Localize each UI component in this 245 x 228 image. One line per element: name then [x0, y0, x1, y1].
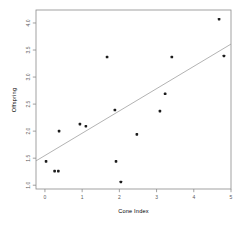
data-point	[85, 125, 88, 128]
plot-box	[36, 10, 231, 189]
data-point	[218, 18, 221, 21]
scatter-chart: 0123451.01.52.02.53.03.54.0 Cone Index O…	[0, 0, 245, 228]
data-point	[58, 130, 61, 133]
data-point	[114, 109, 117, 112]
scatter-plot-figure: 0123451.01.52.02.53.03.54.0 Cone Index O…	[0, 0, 245, 228]
x-tick-label: 0	[44, 194, 47, 200]
data-point	[115, 160, 118, 163]
x-tick-label: 4	[192, 194, 195, 200]
data-point	[136, 133, 139, 136]
y-tick-label: 1.5	[26, 154, 32, 161]
plot-area: 0123451.01.52.02.53.03.54.0	[26, 10, 233, 200]
data-point	[223, 55, 226, 58]
x-tick-label: 2	[118, 194, 121, 200]
data-point	[159, 110, 162, 113]
data-point	[57, 170, 60, 173]
x-tick-label: 1	[81, 194, 84, 200]
y-tick-label: 4.0	[26, 19, 32, 26]
data-point	[45, 160, 48, 163]
x-tick-label: 3	[155, 194, 158, 200]
y-tick-label: 2.0	[26, 127, 32, 134]
y-axis-title: Offspring	[11, 88, 17, 112]
data-point	[171, 56, 174, 59]
x-axis-title: Cone Index	[118, 208, 149, 214]
y-tick-label: 3.5	[26, 46, 32, 53]
x-tick-label: 5	[230, 194, 233, 200]
data-point	[120, 181, 123, 184]
y-tick-label: 3.0	[26, 73, 32, 80]
trend-line	[36, 44, 231, 161]
data-point	[164, 93, 167, 96]
data-point	[53, 170, 56, 173]
data-point	[79, 123, 82, 126]
data-point	[106, 56, 109, 59]
y-tick-label: 1.0	[26, 182, 32, 189]
y-tick-label: 2.5	[26, 100, 32, 107]
